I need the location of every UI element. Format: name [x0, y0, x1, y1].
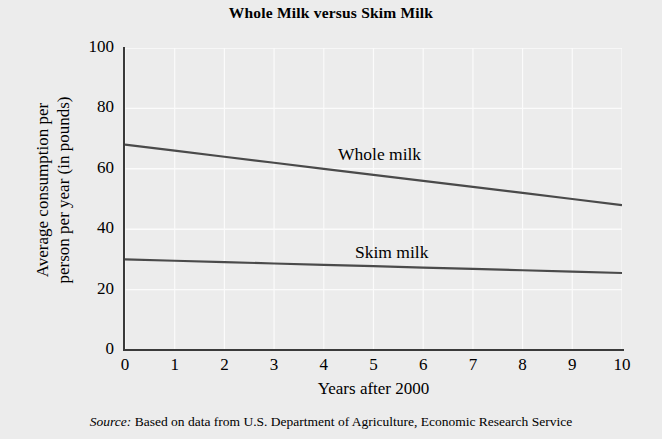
source-note: Source: Based on data from U.S. Departme…	[0, 414, 662, 430]
x-tick-label: 1	[155, 355, 195, 375]
source-text: Based on data from U.S. Department of Ag…	[131, 414, 572, 429]
chart-figure: Whole Milk versus Skim Milk Average cons…	[0, 0, 662, 439]
x-tick-label: 0	[105, 355, 145, 375]
x-tick-label: 6	[403, 355, 443, 375]
x-tick-label: 5	[354, 355, 394, 375]
series-label-skim-milk: Skim milk	[355, 242, 428, 263]
x-tick-labels: 012345678910	[0, 0, 662, 439]
x-tick-label: 7	[453, 355, 493, 375]
x-tick-label: 10	[602, 355, 642, 375]
x-tick-label: 2	[204, 355, 244, 375]
source-prefix: Source:	[90, 414, 131, 429]
x-tick-label: 3	[254, 355, 294, 375]
x-axis-title: Years after 2000	[123, 379, 624, 399]
x-tick-label: 9	[552, 355, 592, 375]
x-tick-label: 4	[304, 355, 344, 375]
series-label-whole-milk: Whole milk	[338, 144, 421, 165]
x-tick-label: 8	[503, 355, 543, 375]
